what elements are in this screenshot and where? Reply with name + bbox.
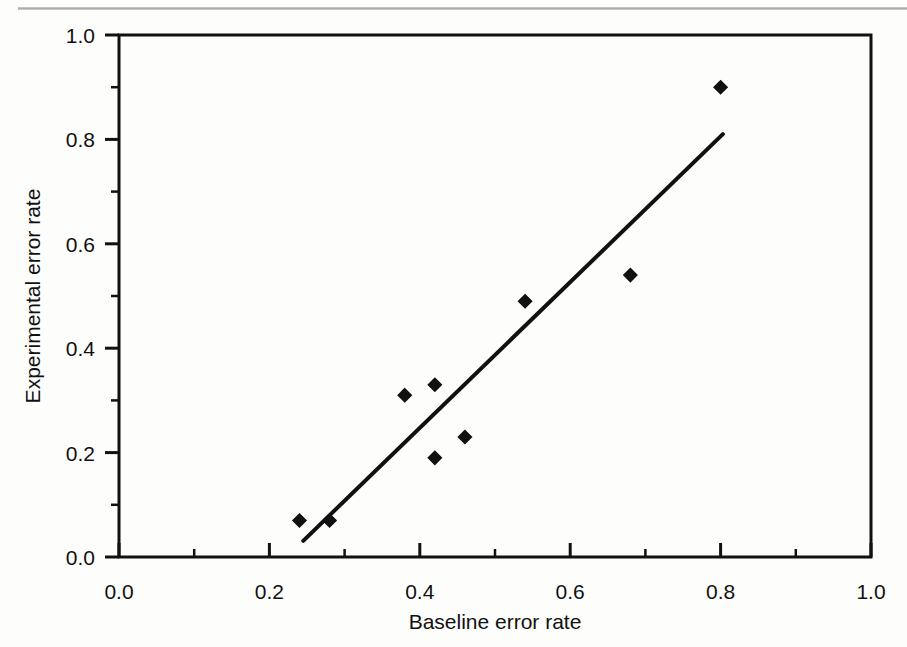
trend-line-segment <box>303 134 723 541</box>
data-point-marker <box>428 378 441 391</box>
data-point-marker <box>323 514 336 527</box>
data-point-marker <box>624 269 637 282</box>
data-point-marker <box>519 295 532 308</box>
y-tick-label: 1.0 <box>66 24 95 47</box>
y-axis-ticks <box>105 35 119 557</box>
trend-line <box>303 134 723 541</box>
y-tick-label: 0.4 <box>66 337 96 360</box>
x-tick-label: 0.0 <box>104 580 133 603</box>
x-tick-label: 0.4 <box>405 580 435 603</box>
x-axis-tick-labels: 0.00.20.40.60.81.0 <box>104 580 885 603</box>
y-tick-label: 0.8 <box>66 128 95 151</box>
x-axis-ticks <box>119 543 871 557</box>
y-axis-tick-labels: 0.00.20.40.60.81.0 <box>66 24 96 569</box>
data-points <box>293 81 727 527</box>
data-point-marker <box>714 81 727 94</box>
plot-frame <box>119 35 871 557</box>
chart-canvas: 0.00.20.40.60.81.0 0.00.20.40.60.81.0 Ba… <box>0 0 907 647</box>
y-tick-label: 0.0 <box>66 546 95 569</box>
scatter-chart-figure: 0.00.20.40.60.81.0 0.00.20.40.60.81.0 Ba… <box>0 0 907 647</box>
data-point-marker <box>428 451 441 464</box>
x-axis-title: Baseline error rate <box>409 610 582 633</box>
x-tick-label: 1.0 <box>856 580 885 603</box>
x-tick-label: 0.8 <box>706 580 735 603</box>
y-tick-label: 0.2 <box>66 442 95 465</box>
x-tick-label: 0.2 <box>255 580 284 603</box>
y-tick-label: 0.6 <box>66 233 95 256</box>
figure-page: 0.00.20.40.60.81.0 0.00.20.40.60.81.0 Ba… <box>0 0 907 647</box>
data-point-marker <box>458 430 471 443</box>
y-axis-title: Experimental error rate <box>21 189 44 404</box>
x-tick-label: 0.6 <box>556 580 585 603</box>
data-point-marker <box>293 514 306 527</box>
data-point-marker <box>398 389 411 402</box>
